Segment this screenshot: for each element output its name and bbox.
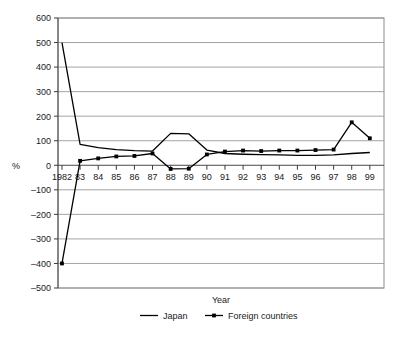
y-tick-label: –500 [31,283,51,293]
x-tick-label: 91 [220,172,230,182]
data-point-marker [332,148,336,152]
legend-label-japan: Japan [163,311,188,321]
y-tick-label: –200 [31,210,51,220]
data-point-marker [151,152,155,156]
x-tick-label: 89 [184,172,194,182]
x-axis-title: Year [212,295,230,305]
legend-marker-square-foreign-countries [212,314,216,318]
series-line-japan [62,43,370,156]
x-tick-label: 88 [166,172,176,182]
chart-screenshot: 6005004003002001000–100–200–300–400–500%… [0,0,397,337]
data-point-marker [277,149,281,153]
legend-label-foreign-countries: Foreign countries [228,311,298,321]
x-tick-label: 97 [329,172,339,182]
data-point-marker [259,149,263,153]
data-point-marker [169,167,173,171]
data-point-marker [296,149,300,153]
x-tick-label: 94 [274,172,284,182]
chart-container: 6005004003002001000–100–200–300–400–500%… [0,0,397,337]
x-tick-label: 87 [148,172,158,182]
data-point-marker [187,167,191,171]
series-line-foreign-countries [62,122,370,263]
x-tick-label: 86 [129,172,139,182]
x-tick-label: 1982 [52,172,72,182]
y-tick-label: –400 [31,259,51,269]
data-point-marker [241,149,245,153]
data-point-marker [114,155,118,159]
data-point-marker [314,148,318,152]
y-tick-label: 400 [36,62,51,72]
data-point-marker [205,153,209,157]
x-tick-label: 98 [347,172,357,182]
x-tick-label: 92 [238,172,248,182]
y-tick-label: 100 [36,136,51,146]
data-point-marker [96,157,100,161]
y-axis-unit-label: % [12,161,20,171]
y-tick-label: –300 [31,234,51,244]
y-tick-label: 200 [36,112,51,122]
data-point-marker [368,136,372,140]
data-point-marker [223,150,227,154]
data-point-marker [350,120,354,124]
y-tick-label: 0 [46,161,51,171]
x-tick-label: 90 [202,172,212,182]
x-tick-label: 93 [256,172,266,182]
data-point-marker [60,262,64,266]
data-point-marker [78,159,82,163]
y-tick-label: 600 [36,13,51,23]
x-tick-label: 95 [292,172,302,182]
y-tick-label: 300 [36,87,51,97]
x-tick-label: 96 [311,172,321,182]
data-point-marker [133,154,137,158]
y-tick-label: 500 [36,38,51,48]
x-tick-label: 85 [111,172,121,182]
x-tick-label: 84 [93,172,103,182]
line-chart: 6005004003002001000–100–200–300–400–500%… [0,0,397,337]
x-tick-label: 99 [365,172,375,182]
y-tick-label: –100 [31,185,51,195]
